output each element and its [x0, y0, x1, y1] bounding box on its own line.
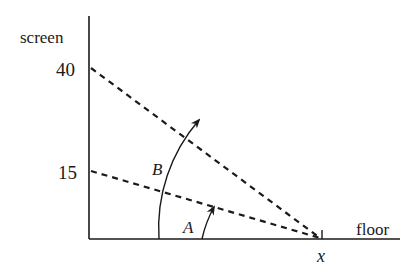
tick-label-40: 40	[56, 59, 75, 80]
sight-line-top	[91, 68, 320, 238]
screen-angle-diagram: screen 40 15 floor x B A	[0, 0, 415, 273]
angle-a-arc	[202, 207, 214, 239]
tick-label-15: 15	[58, 162, 77, 183]
angle-a-label: A	[182, 218, 194, 237]
point-x-label: x	[316, 246, 325, 266]
screen-label: screen	[20, 28, 64, 47]
angle-b-label: B	[152, 160, 163, 179]
floor-label: floor	[356, 220, 389, 239]
